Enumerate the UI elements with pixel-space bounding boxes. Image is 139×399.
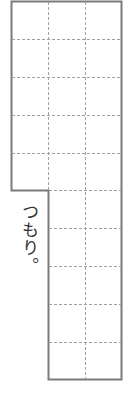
handwritten-answer: つもり。 [17,203,41,275]
writing-grid [0,0,139,399]
